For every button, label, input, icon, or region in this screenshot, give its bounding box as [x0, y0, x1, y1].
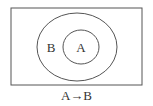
set-a-label: A [76, 40, 86, 55]
diagram-caption: A→B [0, 88, 153, 104]
set-b-label: B [47, 40, 56, 55]
